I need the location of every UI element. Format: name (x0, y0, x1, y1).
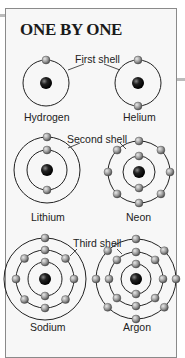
electron-icon (104, 168, 112, 176)
electron-icon (134, 102, 142, 110)
atom-hydrogen (23, 56, 69, 106)
electron-icon (134, 56, 142, 64)
electron-icon (21, 255, 29, 263)
electron-icon (113, 294, 121, 302)
atom-label-sodium: Sodium (30, 321, 66, 333)
atom-label-neon: Neon (126, 211, 151, 223)
electron-icon (132, 235, 140, 243)
electron-icon (104, 303, 112, 311)
electron-icon (172, 275, 180, 283)
electron-icon (135, 152, 143, 160)
atom-label-helium: Helium (123, 111, 156, 123)
electron-icon (132, 260, 140, 268)
electron-icon (41, 292, 49, 300)
atom-label-lithium: Lithium (31, 211, 65, 223)
nucleus-icon (132, 77, 144, 89)
electron-icon (41, 258, 49, 266)
electron-icon (132, 248, 140, 256)
electron-icon (43, 146, 51, 154)
electron-icon (135, 184, 143, 192)
nucleus-icon (41, 164, 53, 176)
electron-icon (42, 56, 50, 64)
electron-icon (12, 275, 20, 283)
atom-neon (104, 137, 174, 207)
electron-icon (43, 186, 51, 194)
electron-icon (41, 304, 49, 312)
electron-icon (135, 199, 143, 207)
second-shell-label: Second shell (67, 133, 127, 145)
electron-icon (157, 190, 165, 198)
electron-icon (105, 275, 113, 283)
electron-icon (151, 294, 159, 302)
electron-icon (166, 168, 174, 176)
atom-helium (115, 56, 161, 110)
nucleus-icon (133, 166, 145, 178)
electron-icon (159, 275, 167, 283)
electron-icon (132, 302, 140, 310)
atom-label-argon: Argon (123, 321, 151, 333)
electron-icon (70, 275, 78, 283)
electron-icon (21, 296, 29, 304)
electron-icon (62, 296, 70, 304)
electron-icon (62, 255, 70, 263)
electron-icon (157, 146, 165, 154)
electron-icon (43, 133, 51, 141)
electron-icon (151, 256, 159, 264)
nucleus-icon (40, 77, 52, 89)
atom-label-hydrogen: Hydrogen (24, 111, 70, 123)
electron-icon (132, 290, 140, 298)
electron-icon (41, 246, 49, 254)
electron-icon (160, 247, 168, 255)
electron-icon (113, 256, 121, 264)
first-shell-label: First shell (75, 53, 120, 65)
electron-icon (113, 190, 121, 198)
electron-icon (160, 303, 168, 311)
electron-icon (135, 137, 143, 145)
electron-icon (92, 275, 100, 283)
nucleus-icon (130, 273, 142, 285)
third-shell-label: Third shell (73, 237, 121, 249)
nucleus-icon (39, 273, 51, 285)
electron-icon (113, 146, 121, 154)
electron-icon (41, 234, 49, 242)
